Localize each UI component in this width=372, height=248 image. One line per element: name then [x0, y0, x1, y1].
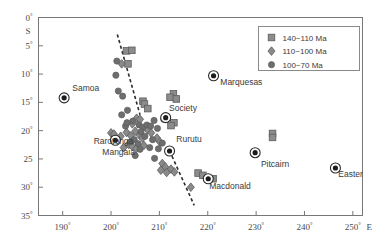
annotation-rurutu: Rurutu [176, 134, 202, 144]
data-point-circle [150, 137, 156, 143]
data-point-square [167, 94, 174, 101]
data-point-square [173, 96, 180, 103]
y-tick-label-2: 10° [21, 68, 33, 80]
annotation-mangaia: Mangaia [102, 147, 135, 157]
hotspot-dot-samoa [62, 95, 67, 100]
data-point-circle [124, 120, 130, 126]
data-point-circle [147, 145, 153, 151]
x-tick-label-6: 250° [345, 220, 362, 232]
data-point-circle [155, 146, 161, 152]
data-point-circle [114, 58, 120, 64]
data-point-square [144, 105, 151, 112]
data-point-square [129, 47, 136, 54]
y-tick-label-7: 35° [21, 209, 33, 221]
data-point-circle [151, 117, 157, 123]
chart-svg: 190°200°210°220°230°240°250°0°5°10°15°20… [0, 0, 372, 248]
x-tick-label-5: 240° [296, 220, 313, 232]
legend-label-2: 100~70 Ma [283, 61, 324, 70]
x-tick-label-1: 200° [103, 220, 120, 232]
data-point-circle [154, 125, 160, 131]
annotation-pitcairn: Pitcairn [261, 159, 290, 169]
y-axis-unit-label: S [25, 26, 30, 36]
annotation-macdonald: Macdonald [209, 181, 251, 191]
x-tick-label-0: 190° [55, 220, 72, 232]
annotation-rarotonga: Rarotonga [94, 136, 134, 146]
y-tick-label-5: 25 [24, 154, 34, 164]
scatter-chart-figure: 190°200°210°220°230°240°250°0°5°10°15°20… [0, 0, 372, 248]
legend-marker-circle [268, 62, 274, 68]
y-tick-label-6: 30° [21, 181, 33, 193]
x-tick-label-4: 230° [248, 220, 265, 232]
x-axis-unit-label: E [367, 222, 372, 232]
hotspot-dot-society [163, 115, 168, 120]
data-point-circle [119, 112, 125, 118]
data-point-circle [137, 146, 143, 152]
annotation-marquesas: Marquesas [220, 77, 262, 87]
data-point-circle [115, 88, 121, 94]
hotspot-dot-pitcairn [253, 150, 258, 155]
data-point-circle [142, 133, 148, 139]
data-point-circle [159, 140, 165, 146]
y-tick-label-4: 20° [21, 124, 33, 136]
data-point-square [168, 122, 175, 129]
y-tick-label-3: 15° [21, 96, 33, 108]
annotation-samoa: Samoa [72, 83, 99, 93]
data-point-circle [148, 123, 154, 129]
data-point-circle [151, 155, 157, 161]
y-tick-label-0: 0° [25, 11, 33, 23]
hotspot-dot-easter [333, 165, 338, 170]
y-tick-label-1: 5° [25, 39, 33, 51]
data-point-circle [124, 107, 130, 113]
data-point-circle [135, 141, 141, 147]
legend-label-1: 110~100 Ma [283, 47, 328, 56]
hotspot-dot-marquesas [211, 73, 216, 78]
hotspot-dot-rurutu [167, 148, 172, 153]
data-point-square [269, 134, 276, 141]
x-tick-label-2: 210° [151, 220, 168, 232]
data-point-circle [130, 118, 136, 124]
annotation-society: Society [169, 103, 198, 113]
data-point-circle [120, 93, 126, 99]
data-point-circle [113, 72, 119, 78]
legend-label-0: 140~110 Ma [283, 34, 328, 43]
annotation-easter: Easter [338, 169, 363, 179]
x-tick-label-3: 220° [200, 220, 217, 232]
legend-marker-square [268, 34, 275, 41]
